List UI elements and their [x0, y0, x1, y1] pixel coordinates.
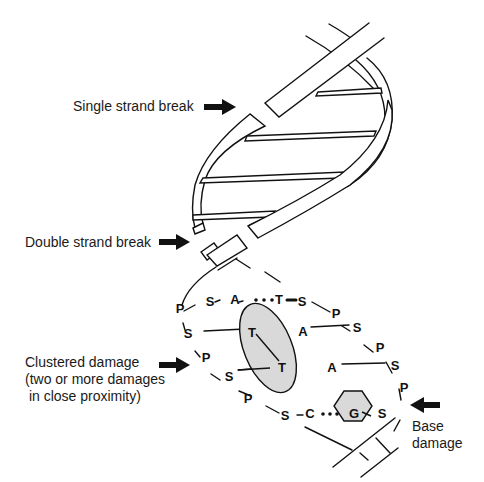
tick-2: [265, 272, 280, 282]
rung-2: [245, 131, 376, 141]
double-strand-break-label: Double strand break: [25, 234, 151, 251]
svg-text:T: T: [278, 360, 286, 375]
arrow-single-strand: [204, 99, 236, 115]
svg-text:P: P: [332, 306, 341, 321]
svg-text:P: P: [376, 340, 385, 355]
base-damage-label-1: Base: [412, 418, 444, 435]
front-strand-lower: [193, 114, 266, 228]
svg-text:A: A: [230, 292, 240, 307]
svg-text:A: A: [327, 360, 337, 375]
arrow-base-damage: [410, 397, 440, 413]
svg-text:S: S: [281, 408, 290, 423]
svg-text:S: S: [206, 294, 215, 309]
base-damage-label-2: damage: [412, 435, 463, 452]
svg-text:S: S: [353, 320, 362, 335]
svg-text:P: P: [244, 391, 253, 406]
svg-text:P: P: [400, 380, 409, 395]
clustered-damage-label-3: in close proximity): [25, 388, 141, 405]
clustered-damage-label-2: (two or more damages: [25, 371, 165, 388]
svg-text:S: S: [298, 294, 307, 309]
single-strand-break-label: Single strand break: [73, 98, 194, 115]
tick-1: [236, 259, 250, 268]
svg-text:S: S: [184, 326, 193, 341]
rung-1: [316, 88, 382, 96]
svg-text:P: P: [202, 350, 211, 365]
dsb-fragment-b: [207, 235, 247, 266]
svg-text:A: A: [298, 324, 308, 339]
svg-text:S: S: [378, 406, 387, 421]
svg-text:P: P: [176, 301, 185, 316]
svg-text:G: G: [349, 406, 359, 421]
clustered-damage-label-1: Clustered damage: [25, 354, 139, 371]
arrow-double-strand: [159, 234, 190, 250]
svg-text:C: C: [305, 406, 315, 421]
svg-text:S: S: [391, 358, 400, 373]
svg-text:T: T: [248, 325, 256, 340]
svg-text:T: T: [275, 292, 283, 307]
rung-3: [200, 172, 345, 183]
front-strand-right-lower: [248, 100, 392, 238]
svg-text:S: S: [225, 369, 234, 384]
